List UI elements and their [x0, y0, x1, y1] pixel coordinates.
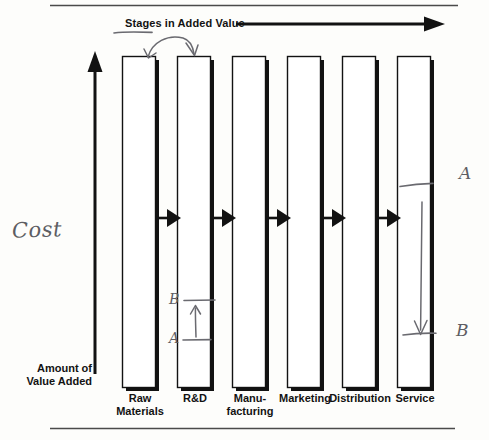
- stages-underline-mark: [114, 32, 152, 33]
- stage-label-service: Service: [384, 392, 446, 405]
- stage-label-rnd: R&D: [164, 392, 226, 405]
- service-lower-mark-label: B: [456, 320, 469, 340]
- service-upper-tick: [400, 183, 433, 186]
- service-upper-mark-label: A: [459, 163, 471, 183]
- value-axis-label-line2: Value Added: [20, 375, 92, 388]
- rnd-up-arrow: [191, 306, 201, 338]
- rnd-upper-tick: [184, 300, 215, 301]
- rnd-lower-mark-label: A: [169, 330, 179, 346]
- value-axis-label: Amount of Value Added: [20, 362, 92, 388]
- figure-title: Stages in Added Value: [125, 17, 245, 29]
- stage-label-raw-materials: Raw Materials: [109, 392, 171, 418]
- service-lower-tick: [403, 333, 436, 335]
- stage-label-line2: facturing: [219, 405, 281, 418]
- stage-label-manufacturing: Manu- facturing: [219, 392, 281, 418]
- figure-canvas: Stages in Added Value Amount of Value Ad…: [0, 0, 489, 440]
- stage-label-line1: Raw: [109, 392, 171, 405]
- service-down-arrow: [415, 202, 428, 335]
- stage-label-line2: Materials: [109, 405, 171, 418]
- bar-comparison-curved-arrow: [144, 37, 198, 58]
- rnd-upper-mark-label: B: [169, 291, 179, 307]
- value-axis-label-line1: Amount of: [20, 362, 92, 375]
- stage-label-line1: R&D: [164, 392, 226, 405]
- stage-label-line1: Manu-: [219, 392, 281, 405]
- cost-handwritten-note: Cost: [12, 217, 63, 243]
- stage-label-line1: Service: [384, 392, 446, 405]
